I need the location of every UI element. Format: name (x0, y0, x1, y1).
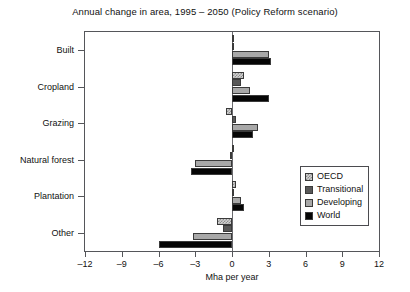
legend-swatch-world-icon (305, 212, 313, 220)
legend-swatch-oecd-icon (305, 173, 313, 181)
bar-grazing-developing (232, 124, 258, 131)
x-axis-tick-label: 3 (266, 259, 271, 269)
x-axis-title: Mha per year (84, 272, 380, 282)
bar-natural-forest-oecd (232, 145, 234, 152)
bar-cropland-transitional (232, 79, 241, 86)
bar-plantation-developing (232, 197, 241, 204)
y-axis-label-natural-forest: Natural forest (20, 155, 74, 165)
legend-item-transitional[interactable]: Transitional (305, 183, 363, 196)
x-axis-tick-label: –3 (190, 259, 200, 269)
x-axis-tick (195, 252, 196, 257)
bar-built-transitional (232, 43, 234, 50)
legend-label: OECD (317, 172, 343, 181)
chart-root: Annual change in area, 1995 – 2050 (Poli… (0, 0, 410, 292)
bar-natural-forest-world (191, 168, 232, 175)
bar-plantation-transitional (232, 189, 234, 196)
legend-item-world[interactable]: World (305, 209, 363, 222)
legend-label: World (317, 211, 340, 220)
x-axis-tick-label: –12 (77, 259, 92, 269)
bar-cropland-world (232, 95, 269, 102)
x-axis-tick (306, 252, 307, 257)
bar-plantation-oecd (232, 181, 236, 188)
bar-other-transitional (223, 225, 232, 232)
x-axis-tick-label: 12 (374, 259, 384, 269)
legend-swatch-developing-icon (305, 199, 313, 207)
legend-label: Transitional (317, 185, 363, 194)
bar-built-developing (232, 51, 269, 58)
chart-legend: OECDTransitionalDevelopingWorld (300, 166, 369, 226)
x-axis-tick (342, 252, 343, 257)
bar-other-world (159, 241, 233, 248)
bar-built-oecd (232, 35, 234, 42)
x-axis-tick (159, 252, 160, 257)
x-axis-tick (85, 252, 86, 257)
x-axis-tick-label: –9 (117, 259, 127, 269)
x-axis-tick (379, 252, 380, 257)
x-axis-tick-label: 0 (229, 259, 234, 269)
bar-other-oecd (217, 218, 232, 225)
x-axis-tick (122, 252, 123, 257)
x-axis-tick-label: 6 (303, 259, 308, 269)
bar-natural-forest-transitional (230, 152, 232, 159)
legend-item-oecd[interactable]: OECD (305, 170, 363, 183)
bar-cropland-developing (232, 87, 250, 94)
y-axis-label-grazing: Grazing (42, 118, 74, 128)
y-axis-label-plantation: Plantation (34, 191, 74, 201)
x-axis-tick (269, 252, 270, 257)
chart-title: Annual change in area, 1995 – 2050 (Poli… (0, 6, 410, 17)
bar-other-developing (193, 233, 232, 240)
bar-grazing-oecd (226, 108, 232, 115)
y-axis-label-cropland: Cropland (37, 82, 74, 92)
legend-item-developing[interactable]: Developing (305, 196, 363, 209)
y-axis-category-labels: BuiltCroplandGrazingNatural forestPlanta… (0, 31, 80, 252)
bar-plantation-world (232, 204, 244, 211)
x-axis-tick-label: 9 (340, 259, 345, 269)
legend-swatch-transitional-icon (305, 186, 313, 194)
bar-grazing-world (232, 131, 253, 138)
x-axis-tick (232, 252, 233, 257)
bar-grazing-transitional (232, 116, 236, 123)
legend-label: Developing (317, 198, 362, 207)
bar-natural-forest-developing (195, 160, 232, 167)
y-axis-label-built: Built (56, 45, 74, 55)
bar-cropland-oecd (232, 72, 244, 79)
bar-built-world (232, 58, 271, 65)
x-axis-tick-label: –6 (153, 259, 163, 269)
y-axis-label-other: Other (51, 228, 74, 238)
